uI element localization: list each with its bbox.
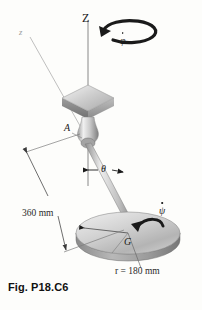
precession-rate-label: φ bbox=[120, 35, 126, 46]
rod-length-label: 360 mm bbox=[22, 208, 53, 218]
nutation-angle-label: θ bbox=[101, 163, 106, 174]
mass-center-label: G bbox=[124, 236, 131, 247]
spin-rate-label: ψ bbox=[159, 205, 165, 216]
precession-axis-label: Z bbox=[82, 11, 89, 26]
theta-right-arrow bbox=[112, 170, 123, 172]
precession-arrow bbox=[104, 21, 156, 43]
disk-radius-label: r = 180 mm bbox=[115, 266, 160, 276]
gyroscope-figure bbox=[0, 0, 202, 310]
dimension-line-upper bbox=[27, 153, 48, 196]
dimension-line-lower bbox=[58, 216, 66, 250]
figure-caption: Fig. P18.C6 bbox=[8, 281, 68, 293]
body-axis-label: z bbox=[19, 27, 22, 37]
body-axis-line bbox=[30, 37, 88, 140]
pivot-point-label: A bbox=[64, 122, 70, 133]
dimension-extension-upper bbox=[26, 134, 80, 152]
